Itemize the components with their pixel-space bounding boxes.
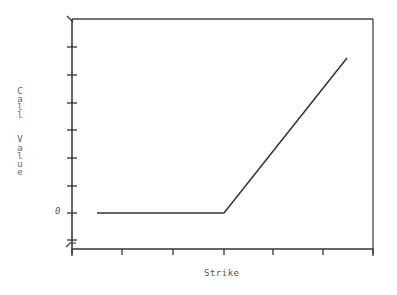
- ylabel-char: l: [14, 111, 26, 119]
- axis-break-mark: [66, 243, 76, 247]
- ylabel-char: e: [14, 168, 26, 176]
- chart-svg: [0, 0, 397, 295]
- chart-container: C a l l V a l u e 0 Strike: [0, 0, 397, 295]
- call-value-line: [97, 58, 347, 213]
- x-axis-ticks: [72, 249, 373, 256]
- y-tick-label-zero: 0: [55, 206, 60, 216]
- ylabel-char: V: [14, 135, 26, 143]
- x-axis-label: Strike: [204, 268, 240, 278]
